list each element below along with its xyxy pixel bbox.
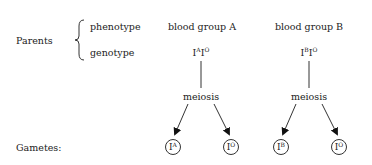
arrow-a-right — [214, 104, 229, 134]
genotype-label: genotype — [90, 48, 134, 58]
brace-icon — [75, 20, 84, 60]
phenotype-label: phenotype — [90, 22, 141, 32]
gamete-a-1: IA — [165, 139, 181, 155]
gamete-b-1: IB — [273, 139, 289, 155]
gamete-b-2: IO — [331, 139, 347, 155]
phenotype-b: blood group B — [275, 22, 343, 32]
arrow-b-right — [322, 104, 337, 134]
phenotype-a: blood group A — [168, 22, 236, 32]
arrow-a-left — [175, 104, 188, 134]
meiosis-b: meiosis — [291, 92, 327, 102]
gametes-label: Gametes: — [16, 143, 61, 153]
genotype-a: IAIO — [193, 48, 210, 58]
parents-label: Parents — [16, 36, 53, 46]
gamete-a-2: IO — [223, 139, 239, 155]
genotype-b: IBIO — [301, 48, 318, 58]
arrow-b-left — [283, 104, 296, 134]
meiosis-a: meiosis — [183, 92, 219, 102]
